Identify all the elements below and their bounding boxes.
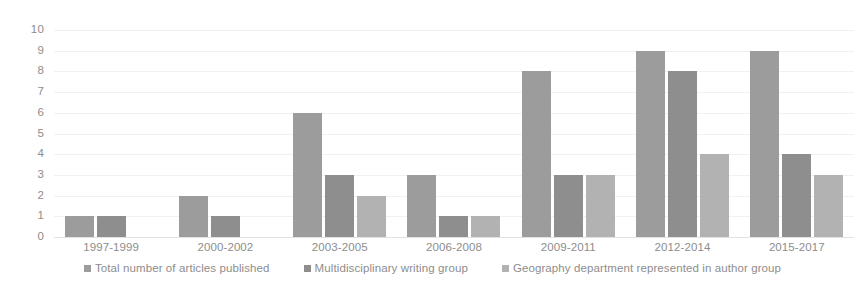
legend-item[interactable]: Multidisciplinary writing group — [304, 262, 468, 274]
bar-group — [54, 30, 168, 237]
bar[interactable] — [211, 216, 240, 237]
y-axis-tick: 8 — [18, 65, 44, 77]
bar-group — [397, 30, 511, 237]
bar[interactable] — [668, 71, 697, 237]
bar[interactable] — [522, 71, 551, 237]
y-axis-tick: 1 — [18, 210, 44, 222]
bar[interactable] — [65, 216, 94, 237]
bar[interactable] — [357, 196, 386, 237]
y-axis-tick: 3 — [18, 169, 44, 181]
bar-group — [740, 30, 854, 237]
y-axis-tick: 6 — [18, 107, 44, 119]
bar[interactable] — [471, 216, 500, 237]
y-axis-tick: 2 — [18, 190, 44, 202]
bar[interactable] — [782, 154, 811, 237]
legend-label: Geography department represented in auth… — [513, 262, 781, 274]
legend-swatch-icon — [84, 265, 91, 272]
legend-label: Total number of articles published — [95, 262, 270, 274]
x-axis-label: 2000-2002 — [168, 240, 282, 258]
bar[interactable] — [325, 175, 354, 237]
legend-item[interactable]: Total number of articles published — [84, 262, 270, 274]
legend-label: Multidisciplinary writing group — [315, 262, 468, 274]
x-axis-label: 2009-2011 — [511, 240, 625, 258]
bar[interactable] — [439, 216, 468, 237]
bar-group — [625, 30, 739, 237]
bar-group — [511, 30, 625, 237]
bars-area — [54, 30, 854, 237]
y-axis-tick: 9 — [18, 45, 44, 57]
bar[interactable] — [750, 51, 779, 237]
plot-area: 109876543210 — [0, 0, 865, 248]
bar[interactable] — [586, 175, 615, 237]
y-axis-tick: 0 — [18, 231, 44, 243]
bar[interactable] — [179, 196, 208, 237]
bar-group — [168, 30, 282, 237]
x-axis-label: 2015-2017 — [740, 240, 854, 258]
bar[interactable] — [293, 113, 322, 237]
bar-chart: 109876543210 1997-19992000-20022003-2005… — [0, 0, 865, 292]
chart-legend: Total number of articles publishedMultid… — [0, 262, 865, 284]
legend-swatch-icon — [304, 265, 311, 272]
bar-group — [283, 30, 397, 237]
y-axis-tick: 5 — [18, 128, 44, 140]
bar[interactable] — [97, 216, 126, 237]
y-axis-tick: 4 — [18, 148, 44, 160]
y-axis-tick: 7 — [18, 86, 44, 98]
legend-swatch-icon — [502, 265, 509, 272]
x-axis-label: 2003-2005 — [283, 240, 397, 258]
x-axis: 1997-19992000-20022003-20052006-20082009… — [54, 240, 854, 258]
y-axis-tick: 10 — [18, 24, 44, 36]
x-axis-label: 1997-1999 — [54, 240, 168, 258]
bar[interactable] — [554, 175, 583, 237]
bar[interactable] — [814, 175, 843, 237]
bar[interactable] — [700, 154, 729, 237]
axis-baseline — [54, 237, 854, 238]
x-axis-label: 2006-2008 — [397, 240, 511, 258]
bar[interactable] — [636, 51, 665, 237]
legend-item[interactable]: Geography department represented in auth… — [502, 262, 781, 274]
bar[interactable] — [407, 175, 436, 237]
y-axis: 109876543210 — [18, 22, 44, 238]
x-axis-label: 2012-2014 — [625, 240, 739, 258]
